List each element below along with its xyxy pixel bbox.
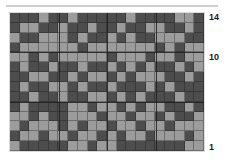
chart-cell[interactable] [146, 121, 156, 131]
chart-cell[interactable] [39, 62, 49, 72]
chart-cell[interactable] [185, 82, 195, 92]
chart-cell[interactable] [136, 102, 146, 112]
chart-cell[interactable] [146, 72, 156, 82]
chart-cell[interactable] [88, 13, 98, 23]
chart-cell[interactable] [175, 92, 185, 102]
chart-cell[interactable] [78, 141, 88, 151]
chart-cell[interactable] [136, 13, 146, 23]
chart-cell[interactable] [117, 121, 127, 131]
chart-cell[interactable] [165, 33, 175, 43]
chart-cell[interactable] [49, 112, 59, 122]
chart-cell[interactable] [78, 62, 88, 72]
chart-cell[interactable] [49, 52, 59, 62]
chart-cell[interactable] [155, 131, 165, 141]
chart-cell[interactable] [165, 62, 175, 72]
chart-cell[interactable] [175, 72, 185, 82]
chart-cell[interactable] [155, 13, 165, 23]
chart-cell[interactable] [117, 112, 127, 122]
chart-cell[interactable] [49, 62, 59, 72]
chart-cell[interactable] [175, 121, 185, 131]
chart-cell[interactable] [88, 43, 98, 53]
chart-cell[interactable] [10, 102, 20, 112]
chart-cell[interactable] [126, 102, 136, 112]
chart-cell[interactable] [49, 33, 59, 43]
chart-cell[interactable] [146, 131, 156, 141]
chart-cell[interactable] [10, 121, 20, 131]
chart-cell[interactable] [39, 131, 49, 141]
colorwork-chart[interactable] [9, 12, 205, 152]
chart-cell[interactable] [155, 112, 165, 122]
chart-cell[interactable] [117, 43, 127, 53]
chart-cell[interactable] [146, 141, 156, 151]
chart-cell[interactable] [175, 13, 185, 23]
chart-cell[interactable] [58, 33, 68, 43]
chart-cell[interactable] [194, 43, 204, 53]
chart-cell[interactable] [117, 92, 127, 102]
chart-cell[interactable] [146, 102, 156, 112]
chart-cell[interactable] [107, 43, 117, 53]
chart-cell[interactable] [78, 23, 88, 33]
chart-cell[interactable] [58, 102, 68, 112]
chart-cell[interactable] [175, 131, 185, 141]
chart-cell[interactable] [146, 82, 156, 92]
chart-cell[interactable] [126, 33, 136, 43]
chart-cell[interactable] [68, 23, 78, 33]
chart-cell[interactable] [194, 131, 204, 141]
chart-cell[interactable] [20, 43, 30, 53]
chart-cell[interactable] [29, 13, 39, 23]
chart-cell[interactable] [97, 62, 107, 72]
chart-cell[interactable] [185, 92, 195, 102]
chart-cell[interactable] [68, 62, 78, 72]
chart-cell[interactable] [126, 52, 136, 62]
chart-cell[interactable] [39, 82, 49, 92]
chart-cell[interactable] [68, 92, 78, 102]
chart-cell[interactable] [107, 72, 117, 82]
chart-cell[interactable] [107, 23, 117, 33]
chart-cell[interactable] [88, 112, 98, 122]
chart-cell[interactable] [58, 141, 68, 151]
chart-cell[interactable] [29, 131, 39, 141]
chart-cell[interactable] [155, 33, 165, 43]
chart-cell[interactable] [97, 43, 107, 53]
chart-cell[interactable] [78, 52, 88, 62]
chart-cell[interactable] [20, 141, 30, 151]
chart-cell[interactable] [165, 43, 175, 53]
chart-cell[interactable] [78, 43, 88, 53]
chart-cell[interactable] [126, 23, 136, 33]
chart-cell[interactable] [88, 121, 98, 131]
chart-cell[interactable] [194, 13, 204, 23]
chart-cell[interactable] [185, 62, 195, 72]
chart-cell[interactable] [185, 131, 195, 141]
chart-cell[interactable] [175, 141, 185, 151]
chart-cell[interactable] [107, 82, 117, 92]
chart-cell[interactable] [165, 52, 175, 62]
chart-cell[interactable] [155, 141, 165, 151]
chart-cell[interactable] [10, 82, 20, 92]
chart-cell[interactable] [136, 92, 146, 102]
chart-cell[interactable] [29, 62, 39, 72]
chart-cell[interactable] [107, 102, 117, 112]
chart-cell[interactable] [20, 92, 30, 102]
chart-cell[interactable] [88, 92, 98, 102]
chart-cell[interactable] [10, 112, 20, 122]
chart-cell[interactable] [49, 121, 59, 131]
chart-cell[interactable] [107, 121, 117, 131]
chart-cell[interactable] [49, 43, 59, 53]
chart-cell[interactable] [185, 43, 195, 53]
chart-cell[interactable] [117, 131, 127, 141]
chart-cell[interactable] [117, 13, 127, 23]
chart-cell[interactable] [165, 92, 175, 102]
chart-cell[interactable] [146, 52, 156, 62]
chart-cell[interactable] [136, 52, 146, 62]
chart-cell[interactable] [194, 82, 204, 92]
chart-cell[interactable] [20, 62, 30, 72]
chart-cell[interactable] [88, 131, 98, 141]
chart-cell[interactable] [78, 131, 88, 141]
chart-cell[interactable] [10, 141, 20, 151]
chart-cell[interactable] [126, 43, 136, 53]
chart-cell[interactable] [58, 72, 68, 82]
chart-cell[interactable] [39, 43, 49, 53]
chart-cell[interactable] [97, 121, 107, 131]
chart-cell[interactable] [88, 33, 98, 43]
chart-cell[interactable] [20, 13, 30, 23]
